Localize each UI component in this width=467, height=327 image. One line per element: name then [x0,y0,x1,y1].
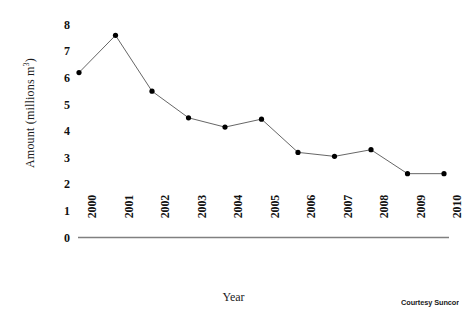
x-axis-title: Year [0,290,467,305]
courtesy-credit: Courtesy Suncor [401,298,459,307]
x-tick-label: 2000 [85,195,100,241]
x-axis-tick-labels: 2000200120022003200420052006200720082009… [0,0,467,327]
x-tick-label: 2001 [122,195,137,241]
x-tick-label: 2009 [414,195,429,241]
x-tick-label: 2002 [158,195,173,241]
chart-screenshot: Amount (millions m3) 876543210 200020012… [0,0,467,327]
x-tick-label: 2007 [341,195,356,241]
x-tick-label: 2008 [377,195,392,241]
x-tick-label: 2003 [195,195,210,241]
x-tick-label: 2010 [450,195,465,241]
x-tick-label: 2006 [304,195,319,241]
x-tick-label: 2005 [268,195,283,241]
x-tick-label: 2004 [231,195,246,241]
